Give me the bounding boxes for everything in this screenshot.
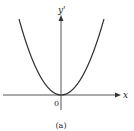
y-axis-arrow-icon	[59, 15, 64, 21]
graph-figure: y' x 0 (a)	[0, 0, 134, 131]
x-axis-arrow-icon	[115, 93, 121, 98]
figure-caption: (a)	[55, 121, 66, 130]
origin-label: 0	[54, 99, 59, 108]
x-axis-label: x	[123, 90, 128, 100]
y-axis-label: y'	[57, 5, 66, 15]
